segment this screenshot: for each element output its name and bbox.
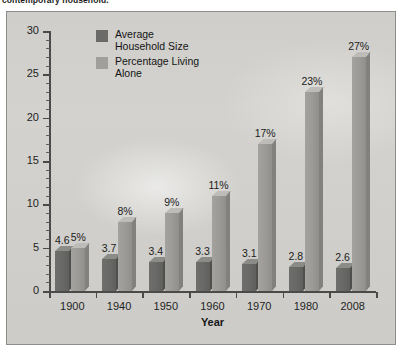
y-axis-tick-minor (46, 213, 50, 214)
y-axis-tick-label: 30 (6, 24, 39, 36)
bar-face (165, 213, 179, 291)
x-axis-tick-label: 1900 (49, 300, 95, 312)
bar (212, 196, 226, 291)
bar-face (212, 196, 226, 291)
y-axis-tick-minor (46, 196, 50, 197)
bar-value-label: 5% (62, 231, 94, 243)
x-axis-tick (189, 292, 191, 298)
x-axis-tick-label: 1940 (96, 300, 142, 312)
bar (165, 213, 179, 291)
bar (258, 144, 272, 291)
bar-face (102, 259, 116, 291)
y-axis-tick-minor (46, 126, 50, 127)
legend-swatch-icon-average-household-size (96, 30, 108, 42)
y-axis-tick-minor (46, 40, 50, 41)
y-axis-tick-minor (46, 152, 50, 153)
legend-label-percentage-living-alone: Percentage Living Alone (115, 56, 199, 79)
caption-strip: contemporary household. (0, 0, 403, 9)
bar (102, 259, 116, 291)
bar-side-bevel (272, 139, 276, 291)
bar (305, 92, 319, 291)
bar-value-label: 8% (109, 205, 141, 217)
x-axis-tick (329, 292, 331, 298)
x-axis-title: Year (49, 316, 376, 328)
bar-face (118, 222, 132, 291)
bar-face (71, 248, 85, 291)
bar-face (242, 264, 256, 291)
y-axis-tick-minor (46, 230, 50, 231)
bar-side-bevel (85, 243, 89, 291)
y-axis-tick-label: 15 (6, 154, 39, 166)
x-axis-tick (96, 292, 98, 298)
y-axis-tick-minor (46, 83, 50, 84)
x-axis-tick (236, 292, 238, 298)
x-axis-tick (376, 292, 378, 298)
y-axis-tick-major (43, 161, 50, 163)
bar-face (289, 267, 303, 291)
bar (289, 267, 303, 291)
bar (55, 251, 69, 291)
bar-value-label: 9% (156, 196, 188, 208)
bar-side-bevel (179, 208, 183, 291)
y-axis-tick-minor (46, 135, 50, 136)
bar (118, 222, 132, 291)
x-axis-tick (142, 292, 144, 298)
legend-entry-average-household-size: Average Household Size (96, 29, 199, 52)
legend-entry-percentage-living-alone: Percentage Living Alone (96, 56, 199, 79)
bar-face (149, 262, 163, 291)
y-axis-tick-label: 0 (6, 284, 39, 296)
bar-side-bevel (319, 87, 323, 291)
bar-face (196, 262, 210, 291)
x-axis-tick (283, 292, 285, 298)
y-axis-tick-minor (46, 92, 50, 93)
x-axis-tick (49, 292, 51, 298)
bar (352, 57, 366, 291)
y-axis-tick-minor (46, 100, 50, 101)
bar-side-bevel (226, 191, 230, 291)
bar (149, 262, 163, 291)
bar-value-label: 11% (203, 179, 235, 191)
y-axis-tick-label: 10 (6, 197, 39, 209)
y-axis-tick-minor (46, 265, 50, 266)
bar-value-label: 27% (343, 40, 375, 52)
legend-swatch-icon-percentage-living-alone (96, 57, 108, 69)
y-axis-tick-minor (46, 222, 50, 223)
chart-figure-frame: 051015202530 190019401950196019701980200… (6, 11, 396, 345)
bar-face (305, 92, 319, 291)
bar (71, 248, 85, 291)
y-axis-tick-minor (46, 178, 50, 179)
y-axis-tick-label: 5 (6, 241, 39, 253)
x-axis-spine (49, 291, 376, 293)
y-axis-tick-major (43, 204, 50, 206)
y-axis-tick-major (43, 248, 50, 250)
y-axis-tick-label: 25 (6, 67, 39, 79)
x-axis-tick-label: 1950 (143, 300, 189, 312)
bar-value-label: 23% (296, 75, 328, 87)
bar (336, 268, 350, 291)
x-axis-tick-label: 1980 (283, 300, 329, 312)
y-axis-tick-minor (46, 256, 50, 257)
bar-face (258, 144, 272, 291)
bar-face (352, 57, 366, 291)
y-axis-tick-minor (46, 109, 50, 110)
bar-face (55, 251, 69, 291)
y-axis-tick-major (43, 74, 50, 76)
x-axis-tick-label: 2008 (330, 300, 376, 312)
bar-value-label: 17% (249, 127, 281, 139)
bar-side-bevel (132, 217, 136, 291)
bar (196, 262, 210, 291)
legend-label-average-household-size: Average Household Size (115, 29, 189, 52)
y-axis-tick-major (43, 118, 50, 120)
caption-text: contemporary household. (2, 0, 109, 5)
y-axis-tick-label: 20 (6, 111, 39, 123)
y-axis-tick-minor (46, 66, 50, 67)
bar (242, 264, 256, 291)
chart-plot-area: 051015202530 190019401950196019701980200… (7, 12, 396, 345)
y-axis-tick-minor (46, 170, 50, 171)
bar-face (336, 268, 350, 291)
y-axis-tick-minor (46, 187, 50, 188)
chart-legend: Average Household Size Percentage Living… (96, 29, 199, 83)
y-axis-tick-minor (46, 282, 50, 283)
y-axis-tick-minor (46, 274, 50, 275)
bar-side-bevel (366, 52, 370, 291)
